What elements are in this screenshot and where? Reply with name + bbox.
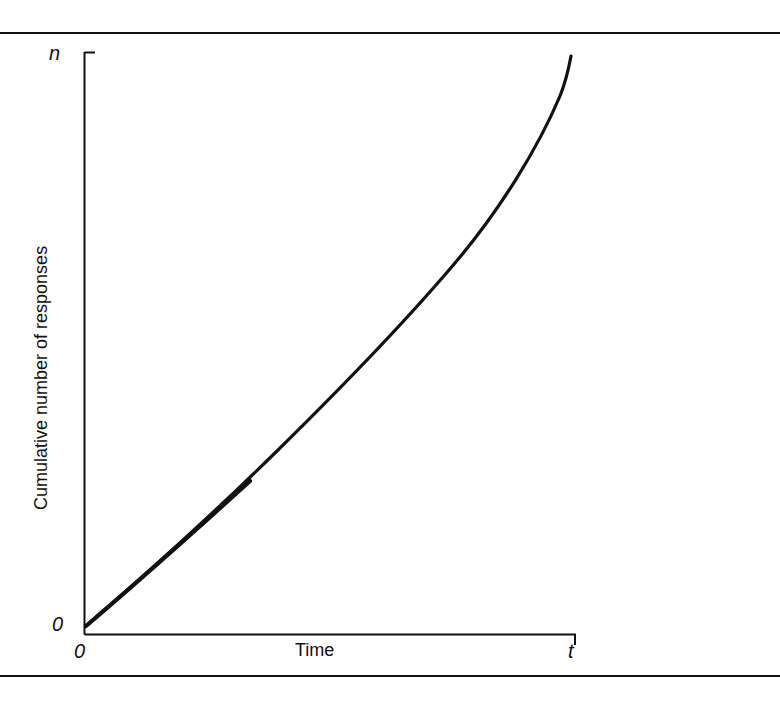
response-curve xyxy=(86,56,571,626)
x-axis-tick-label-t: t xyxy=(568,641,574,661)
figure-container: n 0 0 t Time Cumulative number of respon… xyxy=(0,0,780,712)
x-axis-tick-label-zero: 0 xyxy=(74,641,85,661)
y-axis-tick-label-zero: 0 xyxy=(52,614,63,634)
plot-area xyxy=(0,0,780,712)
response-curve-initial-segment xyxy=(86,481,250,626)
y-axis-title: Cumulative number of responses xyxy=(32,246,50,510)
x-axis-title: Time xyxy=(295,641,334,659)
y-axis-tick-label-n: n xyxy=(49,43,60,63)
